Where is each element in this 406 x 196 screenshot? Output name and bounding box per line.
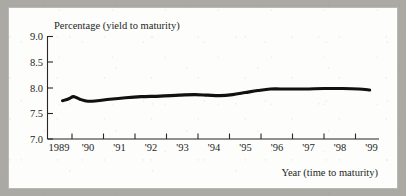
- line-chart: 9.0 8.5 8.0 7.5 7.0 1989 '90 '91 '92 '93…: [0, 0, 406, 196]
- y-tick-label-80: 8.0: [30, 83, 43, 94]
- x-tick-label-1996: '96: [271, 142, 283, 153]
- y-tick-label-75: 7.5: [30, 108, 43, 119]
- y-tick-label-85: 8.5: [30, 57, 43, 68]
- x-tick-label-1997: '97: [302, 142, 314, 153]
- x-tick-label-1989: 1989: [49, 142, 70, 153]
- x-tick-label-1998: '98: [334, 142, 346, 153]
- y-tick-label-70: 7.0: [30, 134, 43, 145]
- x-tick-label-1993: '93: [176, 142, 188, 153]
- y-axis-group: 9.0 8.5 8.0 7.5 7.0: [30, 31, 53, 145]
- x-tick-label-1994: '94: [208, 142, 221, 153]
- figure-page: 9.0 8.5 8.0 7.5 7.0 1989 '90 '91 '92 '93…: [0, 0, 406, 196]
- x-tick-label-1992: '92: [145, 142, 157, 153]
- x-tick-label-1990: '90: [82, 142, 94, 153]
- x-tick-label-1991: '91: [113, 142, 125, 153]
- yield-curve-line: [63, 88, 370, 101]
- x-tick-label-1995: '95: [239, 142, 251, 153]
- y-tick-label-9: 9.0: [30, 31, 43, 42]
- x-axis-title: Year (time to maturity): [281, 167, 378, 179]
- x-tick-label-1999: '99: [365, 142, 377, 153]
- x-axis-group: 1989 '90 '91 '92 '93 '94 '95 '96 '97 '98…: [48, 134, 380, 154]
- y-axis-title: Percentage (yield to maturity): [54, 20, 180, 32]
